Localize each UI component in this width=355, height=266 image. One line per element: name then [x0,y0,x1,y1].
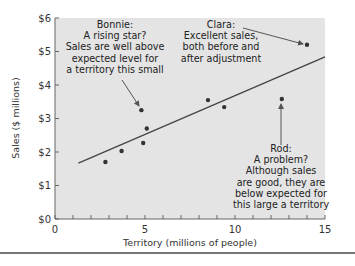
data-point [141,141,145,145]
data-point [206,98,210,102]
y-tick-label: $4 [38,80,51,91]
svg-text:A problem?: A problem? [254,154,308,165]
data-point [305,43,309,47]
svg-text:A rising star?: A rising star? [84,30,147,41]
svg-text:a territory this small: a territory this small [66,64,163,75]
svg-text:Bonnie:: Bonnie: [97,19,133,30]
data-point [145,126,149,130]
data-point [119,149,123,153]
x-tick-label: 5 [142,224,148,235]
svg-text:this large a territory: this large a territory [233,199,329,210]
data-point [103,160,107,164]
y-axis-title: Sales ($ millions) [10,77,21,158]
bottom-divider [0,252,355,254]
svg-text:both before and: both before and [183,41,260,52]
x-tick-label: 0 [52,224,58,235]
x-tick-label: 10 [229,224,242,235]
x-tick-label: 15 [319,224,332,235]
svg-text:below expected for: below expected for [235,188,327,199]
data-point [139,108,143,112]
svg-text:are good, they are: are good, they are [237,177,326,188]
scatter-chart: $0$1$2$3$4$5$6051015 Bonnie:A rising sta… [0,0,355,266]
y-tick-label: $1 [38,180,51,191]
y-tick-label: $0 [38,214,51,225]
y-tick-label: $6 [38,13,51,24]
svg-text:expected level for: expected level for [72,53,159,64]
svg-text:Sales are well above: Sales are well above [66,41,165,52]
y-tick-label: $2 [38,147,51,158]
svg-text:Excellent sales,: Excellent sales, [184,30,258,41]
y-tick-label: $3 [38,113,51,124]
x-axis-title: Territory (millions of people) [122,237,257,248]
svg-text:after adjustment: after adjustment [181,53,262,64]
y-tick-label: $5 [38,46,51,57]
data-point [222,105,226,109]
svg-text:Clara:: Clara: [207,19,235,30]
svg-text:Although sales: Although sales [246,165,317,176]
data-point [280,97,284,101]
